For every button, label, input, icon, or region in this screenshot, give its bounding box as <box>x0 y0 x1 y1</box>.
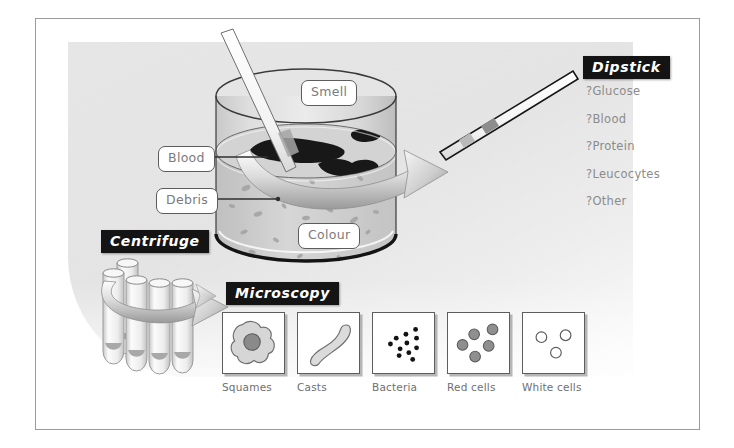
dipstick-strip <box>440 71 578 160</box>
dipstick-item-protein: ?Protein <box>586 139 660 153</box>
microscopy-panel-white-cells: White cells <box>522 312 585 393</box>
dipstick-result-list: ?Glucose ?Blood ?Protein ?Leucocytes ?Ot… <box>586 84 660 222</box>
squames-illustration <box>222 312 285 374</box>
dipstick-item-glucose: ?Glucose <box>586 84 660 98</box>
microscopy-label-white-cells: White cells <box>522 381 585 393</box>
microscopy-panel-casts: Casts <box>297 312 360 393</box>
microscopy-panel-row: Squames Casts <box>222 312 585 393</box>
dipstick-item-leucocytes: ?Leucocytes <box>586 167 660 181</box>
dipstick-tag: Dipstick <box>583 56 670 79</box>
microscopy-tag: Microscopy <box>226 282 339 305</box>
dipstick-item-blood: ?Blood <box>586 112 660 126</box>
microscopy-label-squames: Squames <box>222 381 285 393</box>
callout-colour: Colour <box>298 223 360 249</box>
dipstick-item-other: ?Other <box>586 194 660 208</box>
callout-debris: Debris <box>156 188 218 214</box>
leader-dot-debris <box>276 197 280 201</box>
microscopy-label-bacteria: Bacteria <box>372 381 435 393</box>
centrifuge-tubes <box>102 259 228 374</box>
callout-blood: Blood <box>158 146 215 172</box>
microscopy-label-red-cells: Red cells <box>447 381 510 393</box>
microscopy-panel-squames: Squames <box>222 312 285 393</box>
red-cells-illustration <box>447 312 510 374</box>
microscopy-panel-bacteria: Bacteria <box>372 312 435 393</box>
centrifuge-tag: Centrifuge <box>101 230 209 253</box>
callout-smell: Smell <box>301 80 357 106</box>
casts-illustration <box>297 312 360 374</box>
microscopy-panel-red-cells: Red cells <box>447 312 510 393</box>
figure-canvas: Smell Blood Debris Colour Dipstick Centr… <box>0 0 734 448</box>
white-cells-illustration <box>522 312 585 374</box>
bacteria-illustration <box>372 312 435 374</box>
microscopy-label-casts: Casts <box>297 381 360 393</box>
